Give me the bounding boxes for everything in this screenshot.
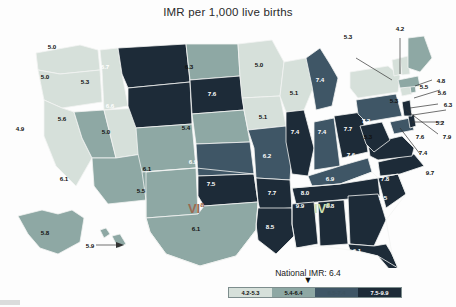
value-ID: 5.3 [81, 78, 89, 85]
value-PA: 7.2 [362, 117, 370, 124]
region-vi-numeral: VI [188, 201, 200, 216]
value-NH: 4.8 [437, 77, 446, 84]
state-NJ[interactable] [402, 100, 412, 116]
value-WV: 7.6 [347, 151, 355, 158]
value-AK: 5.8 [41, 229, 49, 236]
value-VA: 7.6 [416, 133, 425, 140]
value-MN: 5.0 [255, 61, 263, 68]
value-UT: 5.0 [102, 128, 110, 135]
state-HI-2[interactable] [112, 234, 126, 248]
value-KY: 6.9 [326, 175, 334, 182]
value-MS: 9.9 [296, 202, 304, 209]
state-MN[interactable] [238, 40, 284, 98]
value-MI: 7.4 [316, 76, 324, 83]
value-OK: 7.5 [207, 180, 215, 187]
state-NE[interactable] [192, 110, 250, 144]
value-OR: 5.0 [41, 73, 49, 80]
page-title: IMR per 1,000 live births [0, 6, 456, 18]
state-SD[interactable] [190, 76, 244, 114]
state-HI[interactable] [100, 228, 110, 238]
value-TX: 6.1 [192, 225, 200, 232]
national-imr: National IMR: 6.4 ▼ [243, 268, 373, 284]
value-MO: 6.2 [263, 152, 271, 159]
state-NY[interactable] [350, 66, 400, 98]
value-HI: 5.9 [86, 242, 94, 249]
region-vi-sup: a [200, 201, 204, 208]
national-imr-arrow: ▼ [243, 277, 373, 284]
value-KS: 6.9 [189, 158, 197, 165]
value-IL: 7.4 [291, 128, 299, 135]
value-CA: 4.9 [16, 125, 24, 132]
value-MA: 5.6 [438, 89, 447, 96]
value-MD: 7.4 [419, 149, 428, 156]
legend: 4.2-5.3 5.4-6.4 6.5-7.4 7.5-9.9 [228, 287, 402, 298]
state-AK[interactable] [18, 210, 84, 254]
value-NJ: 7.9 [443, 133, 452, 140]
value-CT-callout: 5.2 [436, 119, 445, 126]
region-iv-sup: a [326, 201, 330, 208]
value-WI: 5.1 [290, 89, 298, 96]
value-WA: 5.0 [48, 43, 56, 50]
value-NY: 5.3 [390, 97, 399, 104]
value-NC: 7.8 [381, 175, 389, 182]
value-MT: 6.7 [101, 63, 109, 70]
state-MT[interactable] [118, 44, 190, 88]
state-GA[interactable] [348, 194, 386, 246]
value-VT: 4.2 [396, 25, 405, 32]
value-RI: 6.3 [444, 101, 453, 108]
value-TN: 8.0 [301, 189, 309, 196]
value-WY: 6.6 [106, 102, 114, 109]
scan-artifact [0, 300, 20, 305]
value-NV: 5.6 [58, 115, 66, 122]
legend-bin-1[interactable]: 4.2-5.3 [229, 288, 272, 297]
value-AR: 7.7 [268, 189, 276, 196]
value-NE: 5.4 [182, 124, 190, 131]
region-label-iv: IVa [314, 201, 330, 216]
value-LA: 8.5 [266, 223, 274, 230]
value-ND: 6.3 [185, 63, 193, 70]
value-NY-c2: 5.3 [364, 133, 373, 140]
value-CO: 6.1 [143, 165, 151, 172]
value-NM: 5.5 [137, 187, 145, 194]
value-SD: 7.6 [208, 90, 216, 97]
value-AZ: 6.1 [60, 175, 68, 182]
state-ND[interactable] [186, 44, 240, 80]
state-WA[interactable] [36, 45, 100, 74]
legend-bin-4[interactable]: 7.5-9.9 [358, 288, 401, 297]
value-ME: 5.5 [420, 83, 429, 90]
state-MA[interactable] [398, 76, 420, 88]
value-DE: 9.7 [426, 169, 435, 176]
state-WY[interactable] [128, 82, 192, 128]
value-IN: 7.4 [318, 128, 326, 135]
value-NY-callout: 5.3 [344, 33, 353, 40]
state-AZ[interactable] [92, 154, 146, 204]
value-SC: 7.5 [379, 194, 387, 201]
us-choropleth-map [0, 18, 456, 268]
state-IL[interactable] [286, 110, 314, 176]
legend-bin-3[interactable]: 6.5-7.4 [315, 288, 358, 297]
value-FL: 6.1 [353, 247, 361, 254]
value-OH: 7.7 [344, 125, 352, 132]
region-iv-numeral: IV [314, 201, 326, 216]
map-figure: IMR per 1,000 live births [0, 0, 456, 307]
legend-bin-2[interactable]: 5.4-6.4 [272, 288, 315, 297]
region-label-vi: VIa [188, 201, 204, 216]
value-IA: 5.1 [259, 113, 267, 120]
state-ME[interactable] [408, 36, 432, 72]
state-LA[interactable] [256, 208, 296, 254]
